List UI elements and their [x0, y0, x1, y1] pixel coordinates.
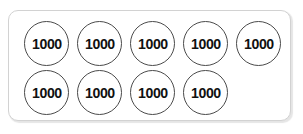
- counter-value-label: 1000: [138, 36, 168, 51]
- counter-chip[interactable]: 1000: [24, 70, 69, 115]
- counter-value-label: 1000: [85, 36, 115, 51]
- counter-row-top: 1000 1000 1000 1000 1000: [9, 21, 290, 67]
- counter-chip[interactable]: 1000: [24, 21, 69, 66]
- counter-value-label: 1000: [32, 85, 62, 100]
- counter-value-label: 1000: [32, 36, 62, 51]
- counter-chip[interactable]: 1000: [236, 21, 281, 66]
- counter-value-label: 1000: [191, 36, 221, 51]
- counter-value-label: 1000: [85, 85, 115, 100]
- counter-value-label: 1000: [191, 85, 221, 100]
- counter-chip[interactable]: 1000: [183, 21, 228, 66]
- counter-chip[interactable]: 1000: [130, 70, 175, 115]
- counter-chip[interactable]: 1000: [183, 70, 228, 115]
- counter-row-bottom: 1000 1000 1000 1000: [9, 70, 290, 116]
- counter-value-label: 1000: [244, 36, 274, 51]
- counter-value-label: 1000: [138, 85, 168, 100]
- counter-chip[interactable]: 1000: [77, 70, 122, 115]
- counter-chip[interactable]: 1000: [130, 21, 175, 66]
- counter-chip[interactable]: 1000: [77, 21, 122, 66]
- counters-card: 1000 1000 1000 1000 1000 1000 1000: [8, 10, 291, 121]
- figure-canvas: 1000 1000 1000 1000 1000 1000 1000: [0, 0, 303, 134]
